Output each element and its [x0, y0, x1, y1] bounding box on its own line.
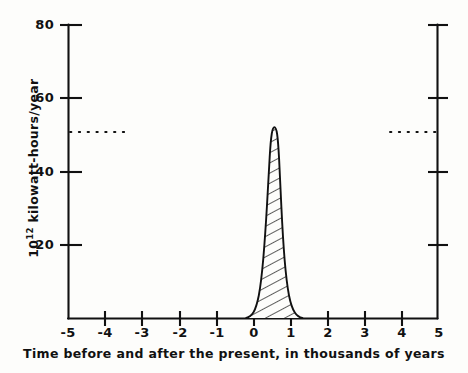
- y-axis-title-exponent: 12: [25, 227, 35, 239]
- chart-background: [0, 0, 468, 373]
- x-tick-label-minus2: -2: [167, 325, 193, 340]
- x-tick-label-minus3: -3: [129, 325, 155, 340]
- y-axis-title-prefix: 10: [26, 240, 41, 258]
- x-tick-label-minus4: -4: [92, 325, 118, 340]
- x-tick-label-4: 4: [389, 325, 415, 340]
- x-axis-title: Time before and after the present, in th…: [0, 346, 468, 361]
- y-axis-title-suffix: kilowatt-hours/year: [26, 79, 41, 228]
- chart-plot-area: [0, 0, 468, 373]
- x-tick-label-5: 5: [426, 325, 452, 340]
- x-tick-label-2: 2: [315, 325, 341, 340]
- x-tick-label-minus1: -1: [204, 325, 230, 340]
- y-tick-label-80: 80: [14, 17, 54, 32]
- x-tick-label-0: 0: [241, 325, 267, 340]
- x-tick-label-3: 3: [352, 325, 378, 340]
- y-axis-title: 1012 kilowatt-hours/year: [25, 43, 41, 293]
- chart-figure: 80 60 40 20 -5 -4 -3 -2 -1 0 1 2 3 4 5 T…: [0, 0, 468, 373]
- x-tick-label-minus5: -5: [55, 325, 81, 340]
- x-tick-label-1: 1: [278, 325, 304, 340]
